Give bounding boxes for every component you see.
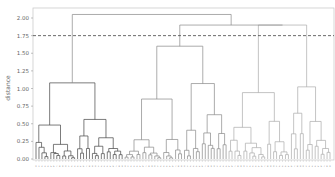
- leaf-label: 3: [282, 165, 284, 168]
- leaf-label: 8: [267, 165, 269, 168]
- leaf-label: 0: [95, 165, 97, 168]
- dendrogram-link: [81, 153, 84, 159]
- dendrogram-link: [238, 155, 241, 159]
- dendrogram-link: [95, 146, 103, 153]
- leaf-label: 2: [219, 165, 221, 168]
- leaf-label: 3: [222, 165, 224, 168]
- dendrogram-link: [134, 140, 149, 151]
- leaf-label: 5: [199, 165, 201, 168]
- dendrogram-link: [285, 155, 288, 159]
- leaf-label: 8: [237, 165, 239, 168]
- leaf-label: 2: [41, 165, 43, 168]
- leaf-label: 7: [264, 165, 266, 168]
- leaf-label: 0: [213, 165, 215, 168]
- leaf-label: 2: [101, 165, 103, 168]
- y-tick-label: 2.00: [17, 15, 30, 21]
- dendrogram-link: [144, 147, 153, 153]
- leaf-label: 8: [178, 165, 180, 168]
- y-tick-label: 0.50: [17, 121, 30, 127]
- dendrogram-link: [137, 154, 140, 159]
- dendrogram-link: [142, 99, 173, 140]
- leaf-label: 4: [196, 165, 198, 168]
- plot-frame: [33, 8, 334, 160]
- leaf-label: 9: [300, 165, 302, 168]
- leaf-label: 5: [317, 165, 319, 168]
- leaf-label: 1: [276, 165, 278, 168]
- leaf-label: 1: [187, 165, 189, 168]
- leaf-label: 4: [47, 165, 49, 168]
- leaf-label: 1: [98, 165, 100, 168]
- leaf-label: 9: [240, 165, 242, 168]
- dendrogram-link: [208, 145, 212, 159]
- dendrogram-link: [193, 148, 197, 159]
- dendrogram-link: [231, 140, 238, 151]
- dendrogram-link: [217, 149, 220, 159]
- leaf-label: 7: [115, 165, 117, 168]
- dendrogram-link: [196, 152, 199, 159]
- leaf-label: 6: [113, 165, 115, 168]
- leaf-label: 6: [202, 165, 204, 168]
- leaf-label: 4: [285, 165, 287, 168]
- leaf-label: 4: [107, 165, 109, 168]
- dendrogram-link: [92, 153, 96, 159]
- leaf-label: 4: [255, 165, 257, 168]
- leaf-label: 6: [261, 165, 263, 168]
- dendrogram-link: [131, 157, 134, 159]
- dendrogram-link: [253, 156, 256, 159]
- leaf-label: 5: [169, 165, 171, 168]
- y-tick-label: 1.50: [17, 50, 30, 56]
- dendrogram-link: [244, 151, 247, 159]
- leaf-label: 2: [160, 165, 162, 168]
- dendrogram-link: [86, 148, 89, 159]
- dendrogram-link: [63, 156, 66, 159]
- dendrogram-link: [327, 152, 330, 159]
- leaf-label: 7: [56, 165, 58, 168]
- leaf-label: 3: [44, 165, 46, 168]
- dendrogram-link: [115, 151, 121, 155]
- dendrogram-link: [191, 84, 214, 131]
- leaf-label: 4: [225, 165, 227, 168]
- leaf-label: 1: [246, 165, 248, 168]
- leaf-label: 3: [193, 165, 195, 168]
- leaf-label: 3: [104, 165, 106, 168]
- dendrogram-link: [229, 151, 232, 159]
- dendrogram-link: [107, 152, 110, 159]
- dendrogram-link: [50, 83, 95, 125]
- dendrogram-link: [101, 154, 104, 159]
- dendrogram-link: [262, 157, 265, 159]
- leaf-label: 1: [38, 165, 40, 168]
- dendrogram-link: [72, 158, 75, 159]
- dendrogram-link: [157, 46, 203, 99]
- leaf-label: 5: [258, 165, 260, 168]
- leaf-label: 9: [151, 165, 153, 168]
- dendrogram-link: [158, 158, 161, 159]
- dendrogram-link: [78, 149, 82, 159]
- dendrogram-link: [80, 136, 88, 149]
- leaf-label: 8: [148, 165, 150, 168]
- leaf-label: 2: [279, 165, 281, 168]
- leaf-label: 7: [145, 165, 147, 168]
- dendrogram-link: [45, 157, 48, 159]
- leaf-label: 0: [243, 165, 245, 168]
- leaf-label: 9: [329, 165, 331, 168]
- leaf-label: 3: [312, 165, 314, 168]
- leaf-label: 3: [252, 165, 254, 168]
- leaf-label: 9: [181, 165, 183, 168]
- leaf-label: 9: [121, 165, 123, 168]
- y-tick-label: 1.25: [17, 68, 30, 74]
- leaf-label: 6: [231, 165, 233, 168]
- dendrogram-link: [187, 156, 190, 159]
- dendrogram-link: [125, 157, 128, 159]
- leaf-label: 0: [273, 165, 275, 168]
- leaf-label: 8: [89, 165, 91, 168]
- leaf-label: 9: [62, 165, 64, 168]
- dendrogram-link: [57, 155, 60, 159]
- y-tick-label: 0.75: [17, 103, 30, 109]
- dendrogram-chart: 0.000.250.500.751.001.251.501.752.00dist…: [0, 0, 335, 177]
- leaf-label: 0: [154, 165, 156, 168]
- leaf-label: 9: [211, 165, 213, 168]
- dendrogram-link: [207, 115, 221, 134]
- dendrogram-link: [308, 145, 312, 159]
- leaf-label: 5: [228, 165, 230, 168]
- leaf-label: 7: [294, 165, 296, 168]
